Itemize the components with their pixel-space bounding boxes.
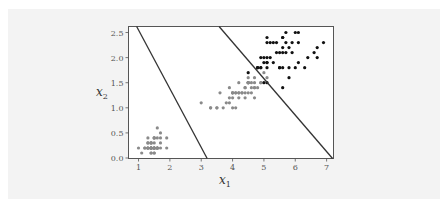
data-point — [265, 36, 268, 39]
y-tick-label: 0.0 — [111, 154, 124, 163]
data-point — [153, 141, 156, 144]
data-point — [156, 126, 159, 129]
data-point — [291, 41, 294, 44]
data-point — [262, 61, 265, 64]
data-point — [272, 61, 275, 64]
data-point — [165, 146, 168, 149]
data-point — [228, 86, 231, 89]
y-axis-label-sub: 2 — [103, 92, 108, 101]
data-point — [294, 31, 297, 34]
x-axis-label: x1 — [219, 173, 231, 189]
data-point — [281, 66, 284, 69]
data-point — [275, 41, 278, 44]
data-point — [165, 136, 168, 139]
data-point — [250, 91, 253, 94]
data-point — [297, 31, 300, 34]
data-point — [146, 141, 149, 144]
y-axis-label: x2 — [96, 85, 108, 101]
data-point — [281, 46, 284, 49]
data-point — [247, 71, 250, 74]
data-point — [159, 131, 162, 134]
data-point — [284, 31, 287, 34]
data-point — [156, 136, 159, 139]
data-point — [150, 141, 153, 144]
data-point — [159, 136, 162, 139]
data-point — [234, 91, 237, 94]
data-point — [250, 81, 253, 84]
x-axis-ticks: 1234567 — [136, 159, 329, 172]
data-point — [237, 91, 240, 94]
data-point — [265, 61, 268, 64]
data-point — [259, 56, 262, 59]
data-point — [262, 81, 265, 84]
data-point — [237, 81, 240, 84]
x-tick-label: 1 — [136, 163, 141, 172]
data-point — [284, 41, 287, 44]
data-point — [297, 61, 300, 64]
data-point — [209, 106, 212, 109]
x-tick-label: 2 — [167, 163, 172, 172]
data-point — [240, 91, 243, 94]
data-point — [150, 146, 153, 149]
data-point — [231, 106, 234, 109]
y-tick-label: 0.5 — [111, 129, 124, 138]
data-point — [306, 56, 309, 59]
x-tick-label: 3 — [199, 163, 204, 172]
scatter-chart: 1234567 0.00.51.01.52.02.5 x1 x2 — [0, 0, 448, 208]
data-point — [287, 46, 290, 49]
data-point — [234, 106, 237, 109]
data-point — [265, 66, 268, 69]
data-point — [253, 81, 256, 84]
y-tick-label: 1.5 — [111, 79, 124, 88]
data-point — [140, 151, 143, 154]
data-point — [228, 101, 231, 104]
y-tick-label: 2.0 — [111, 54, 124, 63]
data-point — [256, 86, 259, 89]
data-point — [215, 106, 218, 109]
data-point — [303, 66, 306, 69]
data-point — [244, 96, 247, 99]
data-point — [218, 91, 221, 94]
data-point — [247, 81, 250, 84]
data-point — [153, 146, 156, 149]
y-axis-ticks: 0.00.51.01.52.02.5 — [111, 29, 129, 163]
data-point — [150, 151, 153, 154]
y-tick-label: 1.0 — [111, 104, 124, 113]
data-point — [262, 56, 265, 59]
data-point — [278, 66, 281, 69]
data-point — [156, 146, 159, 149]
data-point — [294, 66, 297, 69]
data-point — [244, 86, 247, 89]
data-point — [253, 96, 256, 99]
data-point — [250, 86, 253, 89]
data-point — [322, 41, 325, 44]
x-tick-label: 6 — [293, 163, 298, 172]
data-point — [265, 56, 268, 59]
data-point — [265, 41, 268, 44]
data-point — [272, 41, 275, 44]
data-point — [146, 146, 149, 149]
data-point — [281, 36, 284, 39]
data-point — [275, 51, 278, 54]
data-point — [225, 101, 228, 104]
data-point — [228, 96, 231, 99]
data-point — [262, 71, 265, 74]
data-point — [253, 76, 256, 79]
data-point — [281, 51, 284, 54]
data-point — [287, 66, 290, 69]
data-point — [278, 51, 281, 54]
data-point — [259, 81, 262, 84]
data-point — [231, 96, 234, 99]
data-point — [287, 76, 290, 79]
data-point — [244, 91, 247, 94]
data-point — [316, 56, 319, 59]
data-point — [284, 51, 287, 54]
data-point — [269, 41, 272, 44]
data-point — [247, 91, 250, 94]
data-point — [146, 136, 149, 139]
data-point — [265, 76, 268, 79]
data-point — [237, 96, 240, 99]
data-point — [222, 106, 225, 109]
data-point — [291, 51, 294, 54]
data-point — [269, 56, 272, 59]
